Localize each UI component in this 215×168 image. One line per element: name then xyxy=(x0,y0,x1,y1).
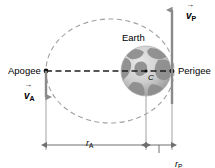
earth-label: Earth xyxy=(122,33,145,43)
velocity-apogee-symbol: v xyxy=(24,90,30,101)
orbit-diagram: Apogee Perigee Earth C → vA → vP rA rP xyxy=(0,0,215,168)
vector-arrow-hat-icon: → xyxy=(24,81,32,89)
dimension-lines xyxy=(47,145,171,153)
velocity-perigee-subscript: P xyxy=(192,15,197,22)
earth-center-label: C xyxy=(148,74,154,82)
vector-arrow-hat-icon: → xyxy=(186,1,194,9)
apogee-label: Apogee xyxy=(8,66,41,76)
apogee-radius-subscript: A xyxy=(89,142,93,149)
earth-globe xyxy=(111,42,173,103)
perigee-label: Perigee xyxy=(178,66,211,76)
velocity-apogee-subscript: A xyxy=(30,95,35,102)
velocity-perigee-label: → vP xyxy=(186,6,196,22)
apogee-radius-label: rA xyxy=(86,133,93,150)
perigee-radius-label: rP xyxy=(175,154,182,168)
velocity-apogee-label: → vA xyxy=(24,86,35,102)
diagram-canvas xyxy=(0,0,215,168)
perigee-radius-subscript: P xyxy=(178,163,182,168)
velocity-perigee-symbol: v xyxy=(186,10,192,21)
